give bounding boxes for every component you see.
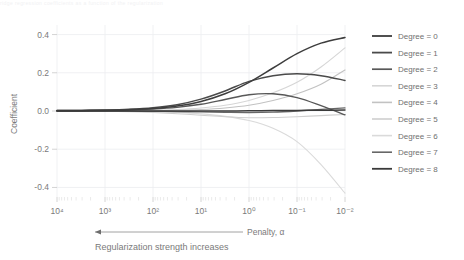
y-tick-label: 0.2 bbox=[37, 68, 49, 78]
x-tick-label: 10⁻¹ bbox=[288, 206, 305, 216]
legend[interactable]: Degree = 0Degree = 1Degree = 2Degree = 3… bbox=[372, 32, 438, 174]
x-tick-label: 10¹ bbox=[195, 206, 207, 216]
legend-label[interactable]: Degree = 8 bbox=[398, 165, 438, 174]
x-axis-tick-labels: 10⁴10³10²10¹10⁰10⁻¹10⁻² bbox=[50, 206, 353, 216]
x-tick-label: 10² bbox=[147, 206, 159, 216]
y-tick-label: 0.4 bbox=[37, 30, 49, 40]
legend-label[interactable]: Degree = 3 bbox=[398, 82, 438, 91]
x-axis-title: Penalty, α bbox=[247, 227, 284, 237]
legend-label[interactable]: Degree = 5 bbox=[398, 115, 438, 124]
x-axis-note: Regularization strength increases bbox=[95, 242, 229, 252]
legend-label[interactable]: Degree = 0 bbox=[398, 32, 438, 41]
tick-marks bbox=[52, 35, 345, 202]
y-tick-label: 0.0 bbox=[37, 106, 49, 116]
legend-label[interactable]: Degree = 4 bbox=[398, 98, 438, 107]
legend-label[interactable]: Degree = 1 bbox=[398, 49, 438, 58]
legend-label[interactable]: Degree = 6 bbox=[398, 132, 438, 141]
legend-label[interactable]: Degree = 7 bbox=[398, 148, 438, 157]
x-tick-label: 10⁰ bbox=[242, 206, 255, 216]
x-tick-label: 10⁴ bbox=[50, 206, 63, 216]
y-axis-title: Coefficient bbox=[9, 93, 19, 134]
y-tick-label: -0.4 bbox=[34, 182, 49, 192]
x-axis-arrow-annotation bbox=[95, 229, 243, 234]
x-tick-label: 10³ bbox=[99, 206, 111, 216]
x-tick-label: 10⁻² bbox=[336, 206, 353, 216]
y-tick-label: -0.2 bbox=[34, 144, 49, 154]
chart-figure: 0.40.20.0-0.2-0.4 10⁴10³10²10¹10⁰10⁻¹10⁻… bbox=[0, 0, 464, 260]
y-axis-tick-labels: 0.40.20.0-0.2-0.4 bbox=[34, 30, 49, 193]
legend-label[interactable]: Degree = 2 bbox=[398, 65, 438, 74]
